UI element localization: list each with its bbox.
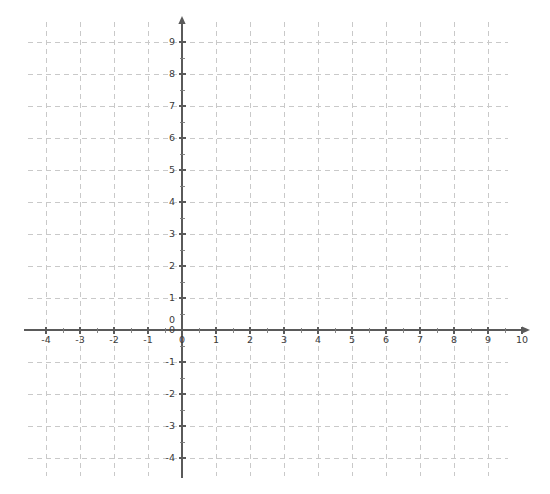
x-axis-tick-label: 9 [485, 334, 491, 345]
x-axis-tick-label: 4 [315, 334, 321, 345]
y-axis-tick-label: 7 [169, 100, 175, 111]
y-axis-tick-label: -4 [166, 452, 175, 463]
x-axis-tick-label: -1 [143, 334, 152, 345]
origin-label: 0 [169, 314, 175, 325]
coordinate-plane: -4-3-2-1012345678910 -4-3-2-10123456789 … [0, 0, 550, 494]
x-axis-tick-label: 6 [383, 334, 389, 345]
y-axis-tick-label: 4 [169, 196, 175, 207]
origin-zero-label: 0 [169, 314, 175, 325]
y-axis-tick-label: 2 [169, 260, 175, 271]
x-axis-tick-label: 10 [516, 334, 528, 345]
y-axis-tick-label: 3 [169, 228, 175, 239]
y-axis-tick-label: 9 [169, 36, 175, 47]
x-axis-tick-label: -2 [109, 334, 118, 345]
y-axis-tick-label: -1 [166, 356, 175, 367]
y-axis-tick-label: 5 [169, 164, 175, 175]
y-axis-tick-label: 8 [169, 68, 175, 79]
x-axis-tick-label: 8 [451, 334, 457, 345]
y-axis-tick-label: 6 [169, 132, 175, 143]
x-axis-tick-label: 7 [417, 334, 423, 345]
x-axis-tick-labels: -4-3-2-1012345678910 [41, 334, 528, 345]
x-axis-tick-label: 5 [349, 334, 355, 345]
x-axis-tick-label: -4 [41, 334, 50, 345]
x-axis-tick-label: 3 [281, 334, 287, 345]
y-axis-tick-label: -3 [166, 420, 175, 431]
y-axis-tick-label: 1 [169, 292, 175, 303]
y-axis-tick-label: -2 [166, 388, 175, 399]
coordinate-plane-svg: -4-3-2-1012345678910 -4-3-2-10123456789 … [0, 0, 550, 494]
x-axis-tick-label: 0 [179, 334, 185, 345]
x-axis-tick-label: 2 [247, 334, 253, 345]
y-axis-tick-label: 0 [169, 324, 175, 335]
x-axis-tick-label: -3 [75, 334, 84, 345]
x-axis-tick-label: 1 [213, 334, 219, 345]
